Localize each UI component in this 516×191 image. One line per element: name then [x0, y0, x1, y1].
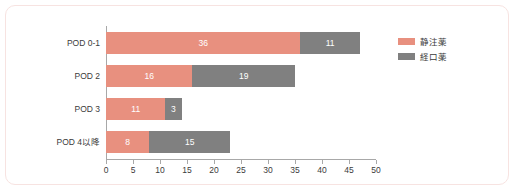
- legend-swatch: [398, 53, 415, 60]
- x-tick-label: 35: [280, 165, 310, 176]
- bar-segment: 3: [165, 98, 181, 120]
- bar-row: POD 0-13611: [106, 32, 376, 54]
- category-label: POD 4以降: [8, 131, 100, 153]
- legend-item[interactable]: 経口薬: [398, 47, 478, 59]
- chart-legend: 静注薬経口薬: [398, 32, 478, 62]
- category-label: POD 2: [8, 65, 100, 87]
- category-label: POD 3: [8, 98, 100, 120]
- plot-area: 05101520253035404550 POD 0-13611POD 2161…: [106, 26, 376, 159]
- x-tick: [241, 160, 242, 164]
- legend-item[interactable]: 静注薬: [398, 32, 478, 44]
- bar-segment: 15: [149, 131, 230, 153]
- x-tick: [187, 160, 188, 164]
- bar-row: POD 21619: [106, 65, 376, 87]
- x-tick-label: 10: [145, 165, 175, 176]
- x-tick: [322, 160, 323, 164]
- bar-row: POD 3113: [106, 98, 376, 120]
- x-tick-label: 5: [118, 165, 148, 176]
- bar-segment: 19: [192, 65, 295, 87]
- bar-segment: 16: [106, 65, 192, 87]
- x-tick: [214, 160, 215, 164]
- bar-value-label: 11: [106, 98, 165, 120]
- legend-swatch: [398, 38, 415, 45]
- x-tick-label: 45: [334, 165, 364, 176]
- x-tick: [349, 160, 350, 164]
- x-tick: [376, 160, 377, 164]
- bar-value-label: 8: [106, 131, 149, 153]
- bar-value-label: 36: [106, 32, 300, 54]
- bar-value-label: 11: [300, 32, 359, 54]
- x-tick: [268, 160, 269, 164]
- x-tick: [295, 160, 296, 164]
- x-tick-label: 40: [307, 165, 337, 176]
- chart-figure: 05101520253035404550 POD 0-13611POD 2161…: [5, 5, 509, 185]
- bar-value-label: 15: [149, 131, 230, 153]
- x-tick-label: 30: [253, 165, 283, 176]
- legend-label: 静注薬: [420, 36, 447, 48]
- bar-segment: 11: [300, 32, 359, 54]
- bar-row: POD 4以降815: [106, 131, 376, 153]
- x-tick-label: 15: [172, 165, 202, 176]
- x-tick: [133, 160, 134, 164]
- x-tick-label: 20: [199, 165, 229, 176]
- x-tick-label: 25: [226, 165, 256, 176]
- bar-value-label: 16: [106, 65, 192, 87]
- x-tick: [106, 160, 107, 164]
- category-label: POD 0-1: [8, 32, 100, 54]
- legend-label: 経口薬: [420, 51, 447, 63]
- x-tick-label: 0: [91, 165, 121, 176]
- bar-value-label: 3: [165, 98, 181, 120]
- x-tick: [160, 160, 161, 164]
- bar-value-label: 19: [192, 65, 295, 87]
- bar-segment: 11: [106, 98, 165, 120]
- bar-segment: 36: [106, 32, 300, 54]
- bar-segment: 8: [106, 131, 149, 153]
- x-tick-label: 50: [361, 165, 391, 176]
